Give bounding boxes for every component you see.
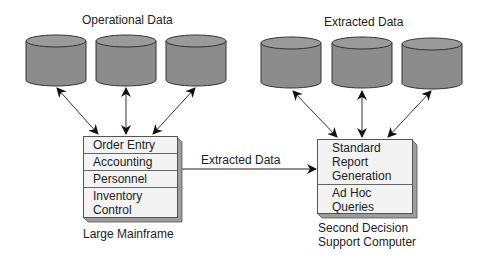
operational-db-3 <box>166 35 226 86</box>
decision-support-box: StandardReportGeneration Ad HocQueries <box>317 139 413 214</box>
connector-label: Extracted Data <box>201 153 280 167</box>
module-standard-report-generation: StandardReportGeneration <box>318 140 412 185</box>
extracted-db-3 <box>402 38 462 89</box>
arrow-db3-mainframe <box>153 88 195 134</box>
module-personnel: Personnel <box>84 171 177 188</box>
operational-db-2 <box>96 35 156 86</box>
module-inventory-control: InventoryControl <box>84 188 177 218</box>
arrow-db1-mainframe <box>57 88 98 134</box>
extracted-db-2 <box>332 37 392 88</box>
extracted-db-1 <box>261 37 321 88</box>
module-accounting: Accounting <box>84 154 177 171</box>
arrow-db3-dss <box>388 91 431 137</box>
module-ad-hoc-queries: Ad HocQueries <box>318 185 412 215</box>
dss-label: Second Decision Support Computer <box>318 221 416 249</box>
large-mainframe-label: Large Mainframe <box>83 227 174 241</box>
extracted-data-title: Extracted Data <box>324 15 403 29</box>
operational-data-title: Operational Data <box>82 13 173 27</box>
module-order-entry: Order Entry <box>84 137 177 154</box>
arrow-db1-dss <box>293 91 337 137</box>
operational-db-1 <box>26 35 86 86</box>
large-mainframe-box: Order Entry Accounting Personnel Invento… <box>83 136 178 218</box>
diagram-canvas <box>0 0 485 255</box>
